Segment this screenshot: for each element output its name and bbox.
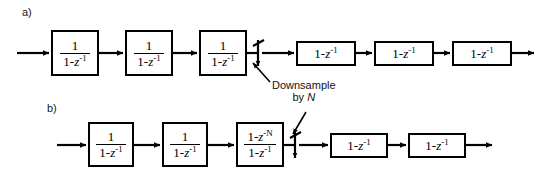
- block-differentiator: 1-z-1: [296, 41, 356, 66]
- block-integrator: 1 1-z-1: [51, 30, 99, 76]
- block-differentiator: 1-z-1: [374, 41, 434, 66]
- block-differentiator: 1-z-1: [408, 133, 466, 158]
- block-differentiator: 1-z-1: [452, 41, 512, 66]
- fraction-denominator: 1-z-1: [60, 54, 89, 68]
- block-integrator: 1 1-z-1: [162, 122, 208, 167]
- fraction-numerator: 1: [105, 130, 118, 144]
- block-integrator: 1 1-z-1: [125, 30, 173, 76]
- fraction-denominator: 1-z-1: [208, 54, 237, 68]
- row-label-b: b): [47, 102, 57, 114]
- fraction-numerator: 1: [179, 130, 192, 144]
- fraction-denominator: 1-z-1: [245, 145, 274, 159]
- transfer-function-fraction: 1 1-z-1: [60, 39, 90, 68]
- transfer-function-expression: 1-z-1: [425, 139, 448, 152]
- fraction-numerator: 1: [69, 39, 82, 53]
- fraction-numerator: 1: [217, 39, 230, 53]
- downsample-annotation-line1: Downsample: [272, 79, 336, 91]
- fraction-denominator: 1-z-1: [96, 145, 125, 159]
- fraction-denominator: 1-z-1: [134, 54, 163, 68]
- transfer-function-expression: 1-z-1: [314, 47, 337, 60]
- downsample-annotation: Downsample by N: [272, 79, 336, 104]
- downsample-annotation-line2: by N: [272, 91, 336, 103]
- fraction-numerator: 1: [143, 39, 156, 53]
- leader-line-to-switch-a: [253, 63, 270, 82]
- row-label-a: a): [22, 6, 32, 18]
- transfer-function-fraction: 1 1-z-1: [134, 39, 164, 68]
- fraction-numerator: 1-z-N: [244, 130, 275, 144]
- transfer-function-fraction: 1 1-z-1: [208, 39, 238, 68]
- transfer-function-expression: 1-z-1: [392, 47, 415, 60]
- transfer-function-fraction: 1-z-N 1-z-1: [244, 130, 275, 159]
- block-comb: 1-z-N 1-z-1: [236, 122, 284, 167]
- leader-line-to-switch-b: [293, 112, 306, 134]
- block-integrator: 1 1-z-1: [88, 122, 134, 167]
- transfer-function-fraction: 1 1-z-1: [96, 130, 126, 159]
- transfer-function-expression: 1-z-1: [470, 47, 493, 60]
- transfer-function-fraction: 1 1-z-1: [170, 130, 200, 159]
- transfer-function-expression: 1-z-1: [347, 139, 370, 152]
- block-integrator: 1 1-z-1: [199, 30, 247, 76]
- downsample-switch-a: [253, 40, 264, 66]
- cic-filter-block-diagram: a) b) 1 1-z-1 1 1-z-1 1 1-z-1 1-z-1 1-z-…: [0, 0, 540, 186]
- fraction-denominator: 1-z-1: [170, 145, 199, 159]
- downsample-switch-b: [290, 132, 301, 158]
- block-differentiator: 1-z-1: [330, 133, 388, 158]
